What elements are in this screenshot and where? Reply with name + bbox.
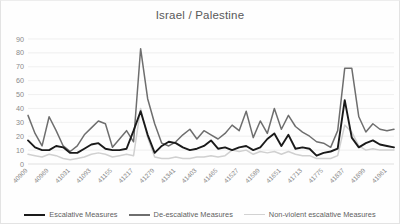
x-axis-tick-label: 40909 [11,166,29,184]
x-axis-tick-label: 41713 [286,166,304,184]
legend-item[interactable]: Non-violent escalative Measures [244,210,376,219]
y-axis-tick-label: 10 [16,146,24,155]
y-axis-tick-label: 20 [16,132,24,141]
x-axis-tick-label: 41093 [75,166,93,184]
x-axis-tick-label: 41651 [265,166,283,184]
x-axis-tick-label: 41589 [243,166,261,184]
x-axis-tick-label: 40969 [32,166,50,184]
legend-item[interactable]: De-escalative Measures [129,210,233,219]
y-axis-tick-label: 30 [16,118,24,127]
x-axis-tick-label: 41837 [328,166,346,184]
x-axis-tick-label: 41465 [201,166,219,184]
x-axis-tick-label: 41403 [180,166,198,184]
line-chart-plot: 0102030405060708090 40909409694103141093… [1,1,400,224]
chart-card: Israel / Palestine 0102030405060708090 4… [0,0,400,224]
x-axis-tick-label: 41279 [138,166,156,184]
legend-label: De-escalative Measures [154,210,233,219]
x-axis-tick-label: 41899 [349,166,367,184]
x-axis-tick-labels: 4090940969410314109341155412174127941341… [11,166,388,184]
legend-swatch-icon [129,214,150,216]
x-axis-tick-label: 41527 [222,166,240,184]
legend-label: Escalative Measures [49,210,117,219]
y-axis-tick-label: 60 [16,76,24,85]
y-axis-tick-label: 90 [16,35,24,44]
y-axis-tick-label: 40 [16,104,24,113]
y-axis-tick-label: 50 [16,90,24,99]
y-axis-tick-labels: 0102030405060708090 [16,35,24,169]
x-axis-tick-label: 41217 [117,166,135,184]
data-series-group [28,49,394,160]
legend-swatch-icon [244,214,265,215]
legend-swatch-icon [24,214,45,216]
x-axis-tick-label: 41775 [307,166,325,184]
y-axis-tick-label: 80 [16,48,24,57]
x-axis-tick-label: 41031 [53,166,71,184]
x-axis-tick-label: 41155 [96,166,113,183]
y-axis-tick-label: 70 [16,62,24,71]
x-axis-tick-label: 41341 [159,166,177,184]
legend-item[interactable]: Escalative Measures [24,210,117,219]
chart-legend: Escalative MeasuresDe-escalative Measure… [1,210,399,219]
x-axis-tick-label: 41961 [370,166,388,184]
legend-label: Non-violent escalative Measures [269,210,376,219]
